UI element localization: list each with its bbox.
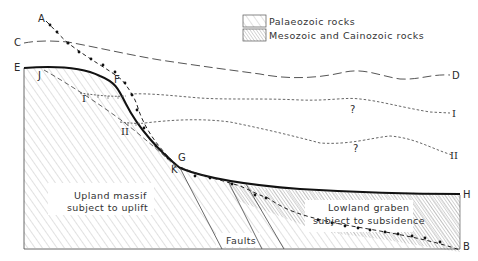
label-H: H xyxy=(463,189,471,200)
label-K: K xyxy=(171,164,178,175)
lowland-label-line2: subject to subsidence xyxy=(313,215,425,226)
legend-swatch-mesozoic xyxy=(243,29,266,41)
geological-cross-section: Palaeozoic rocks Mesozoic and Cainozoic … xyxy=(0,0,478,261)
label-II-left: II xyxy=(121,126,129,137)
surface-II xyxy=(145,120,452,155)
legend-swatch-palaeozoic xyxy=(243,15,266,27)
label-II-right: II xyxy=(450,150,458,161)
label-E: E xyxy=(14,62,20,73)
faults-label: Faults xyxy=(226,235,256,246)
label-D: D xyxy=(452,70,460,81)
upland-label-line1: Upland massif xyxy=(74,190,147,201)
label-F: F xyxy=(114,74,120,85)
legend: Palaeozoic rocks Mesozoic and Cainozoic … xyxy=(243,15,424,41)
surface-I xyxy=(130,94,450,113)
label-J: J xyxy=(37,70,41,81)
upland-label-line2: subject to uplift xyxy=(67,202,148,213)
legend-label-mesozoic: Mesozoic and Cainozoic rocks xyxy=(269,30,424,41)
lowland-label-line1: Lowland graben xyxy=(328,202,410,213)
uncertain-mark-II: ? xyxy=(353,143,358,154)
label-I-left: I xyxy=(82,93,86,104)
label-C: C xyxy=(14,37,21,48)
label-G: G xyxy=(178,152,186,163)
label-B: B xyxy=(463,241,470,252)
label-I-right: I xyxy=(452,108,456,119)
legend-label-palaeozoic: Palaeozoic rocks xyxy=(269,16,355,27)
uncertain-mark-I: ? xyxy=(350,104,355,115)
label-A: A xyxy=(38,13,45,24)
